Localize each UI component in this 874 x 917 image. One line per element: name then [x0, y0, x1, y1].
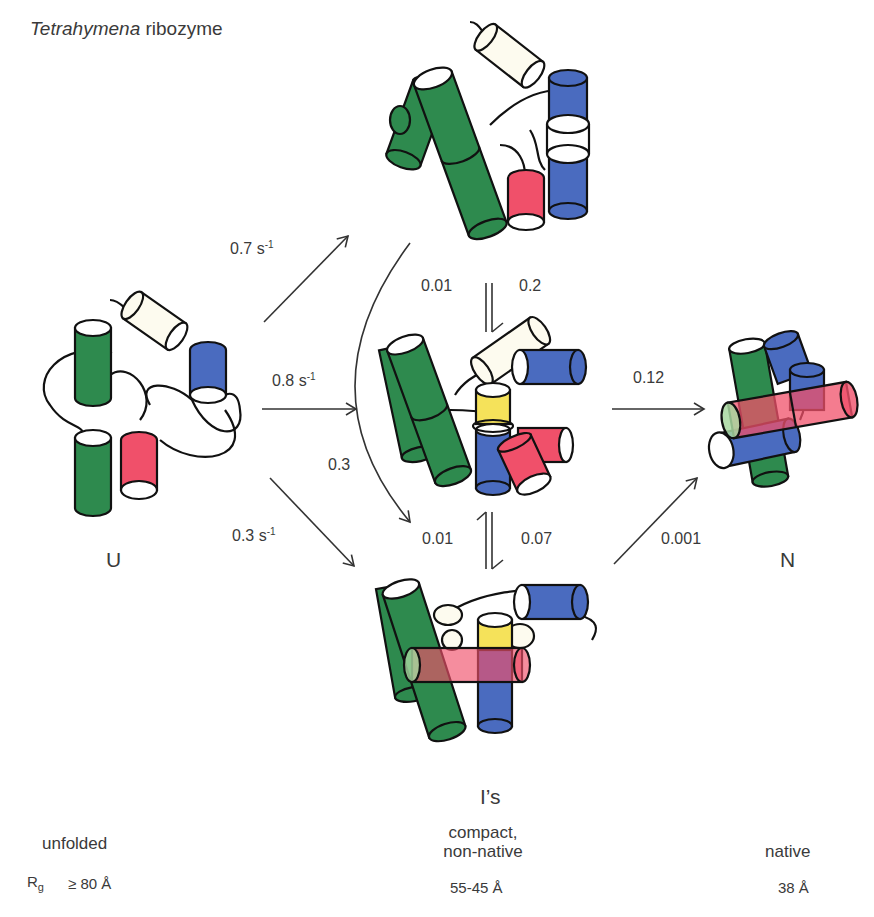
rate-ibot-to-n: 0.001: [661, 530, 701, 548]
equilibrium-arrows-bottom: [477, 512, 503, 569]
rg-native: 38 Å: [778, 879, 809, 896]
desc-native: native: [765, 842, 810, 861]
state-label-i: I’s: [480, 785, 501, 809]
rate-imid-to-n: 0.12: [633, 369, 664, 387]
arrow-ibot-to-n: [614, 478, 697, 564]
rg-unfolded: ≥ 80 Å: [68, 875, 111, 892]
rate-u-to-itop: 0.7 s-1: [230, 240, 274, 258]
arrow-u-to-itop: [264, 236, 348, 322]
rate-ibot-reverse: 0.01: [422, 530, 453, 548]
folding-diagram: [0, 0, 874, 917]
desc-compact-line1: compact,: [418, 823, 548, 842]
desc-compact: compact, non-native: [418, 823, 548, 861]
arrow-u-to-ibot: [270, 478, 354, 566]
desc-unfolded: unfolded: [42, 834, 107, 853]
rg-compact: 55-45 Å: [450, 879, 503, 896]
equilibrium-arrows-top: [486, 283, 503, 332]
rate-itop-forward: 0.2: [519, 277, 541, 295]
structure-i-top: [384, 20, 591, 243]
structure-n: [706, 327, 860, 489]
rate-ibot-forward: 0.07: [521, 530, 552, 548]
rg-label: Rg: [27, 873, 44, 893]
structure-u: [44, 288, 241, 516]
structure-i-bot: [376, 576, 596, 746]
state-label-n: N: [780, 548, 795, 572]
rate-curved: 0.3: [328, 456, 350, 474]
rate-u-to-ibot: 0.3 s-1: [232, 527, 276, 545]
rate-u-to-imid: 0.8 s-1: [272, 372, 316, 390]
state-label-u: U: [106, 548, 121, 572]
structure-i-mid: [379, 314, 586, 499]
desc-compact-line2: non-native: [418, 842, 548, 861]
rate-itop-reverse: 0.01: [421, 277, 452, 295]
